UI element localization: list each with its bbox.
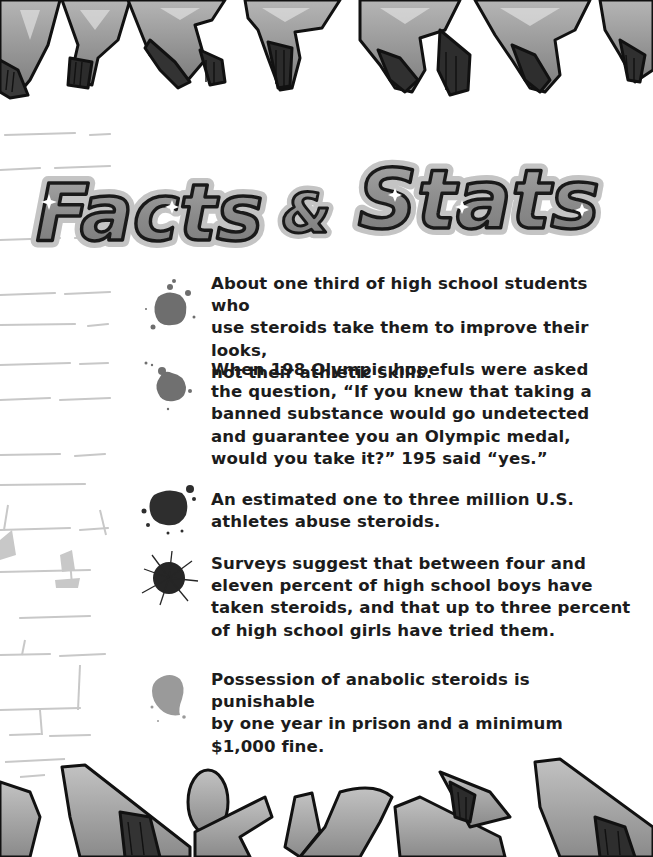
facts-and-stats-title: Facts Facts & & Stats Stats <box>0 150 653 260</box>
graffiti-lettering-top-icon <box>0 0 653 125</box>
graffiti-banner-bottom <box>0 737 653 857</box>
title-word-facts: Facts <box>36 168 263 258</box>
page-title: Facts Facts & & Stats Stats <box>0 150 653 260</box>
fact-text: When 198 Olympic hopefuls were asked the… <box>211 359 631 470</box>
paint-splat-icon <box>138 355 200 417</box>
paint-splat-icon <box>138 477 200 539</box>
paint-splat-icon <box>138 547 200 609</box>
title-ampersand: & <box>282 180 331 245</box>
paint-splat-icon <box>138 665 200 727</box>
fact-text: An estimated one to three million U.S. a… <box>211 489 631 533</box>
graffiti-lettering-bottom-icon <box>0 737 653 857</box>
graffiti-banner-top <box>0 0 653 125</box>
paint-splat-icon <box>138 277 200 339</box>
fact-text: Surveys suggest that between four and el… <box>211 553 631 642</box>
